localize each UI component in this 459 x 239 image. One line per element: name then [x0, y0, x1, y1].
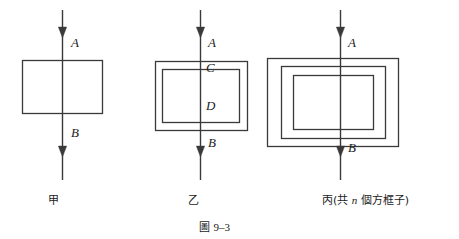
- arrowhead-jia-2: [58, 146, 66, 157]
- panel-label-jia: 甲: [48, 195, 59, 206]
- caption-number: 9–3: [214, 221, 231, 233]
- panel-label-yi: 乙: [188, 195, 199, 206]
- point-label-yi-c: C: [206, 61, 215, 74]
- box-bing-1: [268, 59, 399, 147]
- point-label-yi-b: B: [208, 136, 216, 149]
- arrowhead-yi-2: [196, 146, 204, 157]
- arrowhead-bing-1: [336, 27, 344, 38]
- panel-yi: [156, 10, 248, 180]
- panel-jia: [23, 10, 103, 180]
- box-bing-2: [282, 67, 386, 139]
- box-yi-1: [156, 62, 248, 131]
- point-label-yi-d: D: [206, 99, 215, 112]
- caption-prefix: 圖: [199, 221, 214, 234]
- point-label-yi-a: A: [208, 36, 216, 49]
- arrowhead-jia-1: [58, 27, 66, 38]
- box-bing-3: [294, 76, 374, 130]
- arrowhead-yi-1: [196, 27, 204, 38]
- point-label-jia-a: A: [71, 36, 79, 49]
- figure-page: AB甲ACDB乙AB丙(共 n 個方框子) 圖 9–3: [0, 0, 459, 239]
- point-label-bing-a: A: [348, 36, 356, 49]
- arrowhead-bing-2: [336, 146, 344, 157]
- point-label-bing-b: B: [348, 141, 356, 154]
- figure-caption: 圖 9–3: [199, 222, 230, 233]
- panel-bing: [268, 10, 399, 180]
- panel-label-bing: 丙(共 n 個方框子): [322, 195, 409, 206]
- point-label-jia-b: B: [71, 126, 79, 139]
